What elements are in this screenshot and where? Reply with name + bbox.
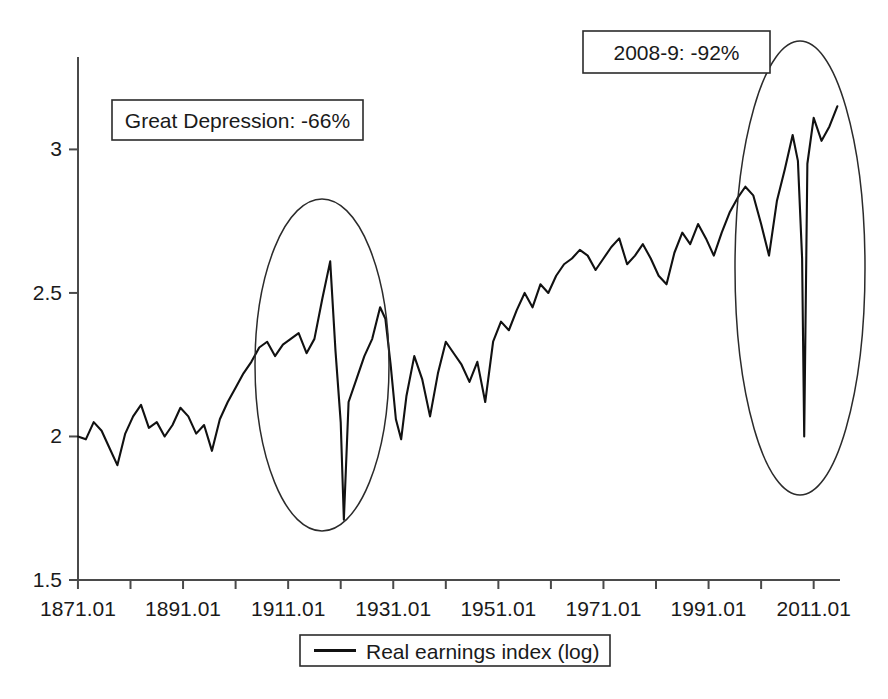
x-tick-label: 1991.01	[671, 597, 747, 620]
x-axis-ticks	[78, 580, 814, 589]
annotation-crisis-2008: 2008-9: -92%	[583, 31, 865, 495]
x-tick-label: 1951.01	[460, 597, 536, 620]
x-axis-tick-labels: 1871.011891.011911.011931.011951.011971.…	[40, 597, 851, 620]
series-real-earnings-index	[78, 106, 837, 519]
y-axis-tick-labels: 1.522.53	[33, 137, 62, 591]
y-tick-label: 1.5	[33, 568, 62, 591]
highlight-ellipse-great-depression	[255, 199, 389, 531]
annotation-label-great-depression: Great Depression: -66%	[125, 109, 350, 132]
series-group	[78, 106, 837, 519]
x-axis: 1871.011891.011911.011931.011951.011971.…	[40, 580, 851, 620]
x-tick-label: 1891.01	[145, 597, 221, 620]
x-tick-label: 1971.01	[566, 597, 642, 620]
y-axis: 1.522.53	[33, 57, 78, 591]
chart-container: 1.522.53 1871.011891.011911.011931.01195…	[0, 0, 888, 699]
highlight-ellipse-crisis-2008	[735, 41, 865, 495]
x-tick-label: 1911.01	[251, 597, 325, 620]
x-tick-label: 1871.01	[40, 597, 116, 620]
legend: Real earnings index (log)	[300, 635, 610, 666]
y-tick-label: 2.5	[33, 281, 62, 304]
x-tick-label: 2011.01	[776, 597, 850, 620]
annotation-great-depression: Great Depression: -66%	[112, 100, 389, 531]
annotation-label-crisis-2008: 2008-9: -92%	[613, 41, 739, 64]
x-tick-label: 1931.01	[355, 597, 431, 620]
y-axis-ticks	[69, 149, 78, 580]
y-tick-label: 3	[50, 137, 62, 160]
real-earnings-index-chart: 1.522.53 1871.011891.011911.011931.01195…	[0, 0, 888, 699]
legend-label-real-earnings-index: Real earnings index (log)	[366, 640, 599, 663]
y-tick-label: 2	[50, 424, 62, 447]
